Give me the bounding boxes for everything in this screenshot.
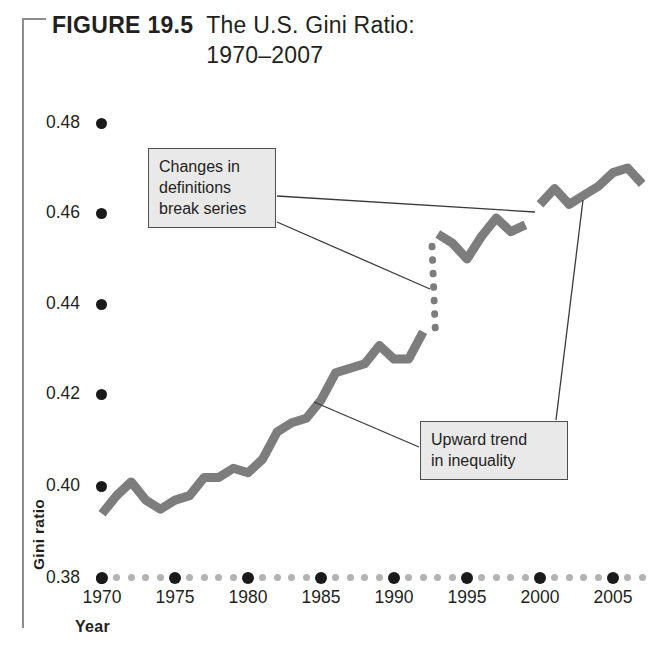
break-series-callout-line2: definitions: [159, 177, 266, 198]
leader-break-to-1993: [277, 196, 535, 212]
upward-trend-callout-line2: in inequality: [431, 450, 558, 471]
data-series-line-3: [540, 168, 642, 204]
upward-trend-callout: Upward trend in inequality: [420, 421, 568, 480]
data-series-line-1: [102, 332, 423, 514]
series-break-connector: [432, 240, 435, 328]
break-series-callout: Changes in definitions break series: [148, 148, 276, 228]
leader-break-to-dotted: [277, 222, 430, 289]
leader-upward-to-2001: [556, 200, 583, 420]
series-layer: [0, 0, 663, 666]
break-series-callout-line1: Changes in: [159, 156, 266, 177]
figure-19-5: FIGURE 19.5 The U.S. Gini Ratio: 1970–20…: [0, 0, 663, 666]
leader-upward-to-curve: [314, 402, 419, 447]
break-series-callout-line3: break series: [159, 198, 266, 219]
upward-trend-callout-line1: Upward trend: [431, 429, 558, 450]
data-series-line-2: [438, 218, 526, 259]
chart-plot-area: 0.48 0.46 0.44 0.42 0.40 0.38 Gini ratio…: [0, 0, 663, 666]
